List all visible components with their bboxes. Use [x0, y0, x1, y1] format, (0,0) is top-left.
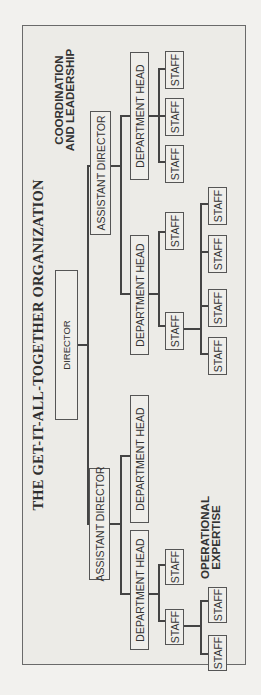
- staff-box: STAFF: [165, 312, 184, 350]
- staff-box: STAFF: [165, 51, 184, 89]
- annotation-operational-expertise: OPERATIONAL EXPERTISE: [200, 490, 222, 585]
- org-chart-rotated: THE GET-IT-ALL-TOGETHER ORGANIZATION DIR…: [0, 0, 261, 695]
- department-head-left-2: DEPARTMENT HEAD: [130, 395, 149, 523]
- staff-box: STAFF: [208, 289, 227, 327]
- connector: [120, 455, 122, 595]
- staff-box: STAFF: [208, 635, 227, 671]
- staff-box: STAFF: [165, 145, 184, 183]
- staff-box: STAFF: [165, 98, 184, 136]
- staff-box: STAFF: [208, 187, 227, 225]
- connector: [158, 161, 165, 163]
- staff-box: STAFF: [208, 235, 227, 273]
- assistant-director-right: ASSISTANT DIRECTOR: [90, 111, 111, 235]
- connector: [200, 600, 208, 602]
- department-head-right-2: DEPARTMENT HEAD: [130, 52, 149, 180]
- connector: [200, 203, 208, 205]
- connector: [158, 620, 165, 622]
- connector: [158, 68, 165, 70]
- connector: [200, 353, 208, 355]
- connector: [120, 455, 130, 457]
- assistant-director-left: ASSISTANT DIRECTOR: [89, 468, 110, 580]
- connector: [120, 115, 122, 295]
- staff-box: STAFF: [208, 337, 227, 375]
- connector: [200, 653, 208, 655]
- connector: [200, 203, 202, 355]
- staff-box: STAFF: [208, 587, 227, 623]
- annotation-line: EXPERTISE: [211, 490, 222, 585]
- director-box: DIRECTOR: [55, 270, 78, 420]
- connector: [120, 593, 130, 595]
- staff-box: STAFF: [165, 549, 184, 585]
- connector: [158, 564, 165, 566]
- connector: [120, 293, 130, 295]
- staff-box: STAFF: [165, 212, 184, 250]
- chart-title: THE GET-IT-ALL-TOGETHER ORGANIZATION: [30, 145, 47, 545]
- connector: [200, 305, 208, 307]
- connector: [200, 600, 202, 655]
- staff-box: STAFF: [165, 609, 184, 645]
- annotation-line: AND LEADERSHIP: [65, 25, 76, 175]
- connector: [120, 115, 130, 117]
- annotation-coordination-leadership: COORDINATION AND LEADERSHIP: [54, 25, 76, 175]
- department-head-left-1: DEPARTMENT HEAD: [130, 530, 149, 650]
- department-head-right-1: DEPARTMENT HEAD: [130, 235, 149, 355]
- connector: [158, 231, 160, 327]
- connector: [158, 231, 165, 233]
- connector: [158, 564, 160, 622]
- connector: [158, 325, 165, 327]
- connector: [158, 115, 165, 117]
- connector: [149, 593, 158, 595]
- connector: [200, 251, 208, 253]
